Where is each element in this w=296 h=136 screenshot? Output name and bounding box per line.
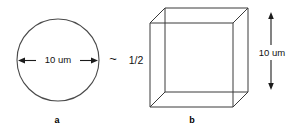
diagram-canvas: 10 um a ~ 1/2 b xyxy=(0,0,296,136)
panel-a-label: a xyxy=(54,115,60,125)
height-arrow-bottom-head xyxy=(268,83,274,90)
cube-edge-top-left xyxy=(150,8,165,23)
circle-diameter-label: 10 um xyxy=(45,54,71,65)
figure-container: 10 um a ~ 1/2 b xyxy=(0,0,296,136)
panel-a-group: 10 um a xyxy=(17,19,99,125)
approx-symbol: ~ xyxy=(109,51,117,66)
diameter-arrow-left-head xyxy=(18,58,25,64)
cube-height-label: 10 um xyxy=(259,47,285,58)
panel-b-group: b xyxy=(150,8,248,125)
cube-edge-bottom-right xyxy=(233,92,248,107)
ratio-label: 1/2 xyxy=(129,54,144,66)
diameter-arrow-right-head xyxy=(91,58,98,64)
height-dimension-group: 10 um xyxy=(259,12,285,90)
cube-edge-bottom-left xyxy=(150,92,165,107)
cube-edge-top-right xyxy=(233,8,248,23)
height-arrow-top-head xyxy=(268,12,274,19)
panel-b-label: b xyxy=(189,115,195,125)
relation-group: ~ 1/2 xyxy=(109,51,143,66)
